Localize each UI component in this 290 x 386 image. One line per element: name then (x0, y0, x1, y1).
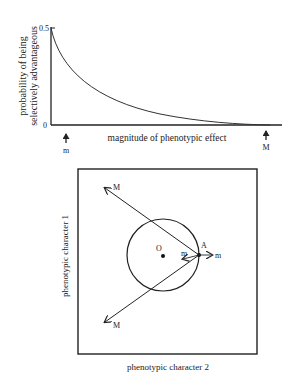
x-axis-label: magnitude of phenotypic effect (108, 133, 227, 143)
optimum-point (161, 254, 165, 258)
marker-small-label: m (63, 146, 70, 155)
top-chart: 0.5 0 probability of being selectively a… (17, 24, 282, 155)
point-a-label: A (201, 241, 207, 250)
probability-curve (51, 28, 270, 125)
y-tick-label-top: 0.5 (39, 24, 49, 33)
marker-large-label: M (262, 143, 269, 152)
small-mutation-label-outer: m (215, 251, 222, 260)
y-tick-label-bottom: 0 (43, 121, 47, 130)
figure: 0.5 0 probability of being selectively a… (0, 0, 290, 386)
y-axis-label-line2: selectively advantageous (28, 26, 39, 126)
small-mutation-label-inner: m (181, 249, 188, 258)
large-mutation-label-upper: M (113, 183, 120, 192)
large-mutation-label-lower: M (113, 321, 120, 330)
bottom-diagram: O A M M m m phenotypic character 1 pheno… (60, 169, 257, 372)
y-axis-label-line1: probability of being (17, 36, 28, 115)
large-mutation-arrow-lower (105, 255, 199, 322)
large-mutation-arrow-upper (105, 188, 199, 255)
y-axis-label: phenotypic character 1 (60, 215, 70, 297)
optimum-label: O (156, 244, 162, 253)
phenotype-space-box (78, 169, 257, 354)
x-axis-label: phenotypic character 2 (127, 362, 209, 372)
